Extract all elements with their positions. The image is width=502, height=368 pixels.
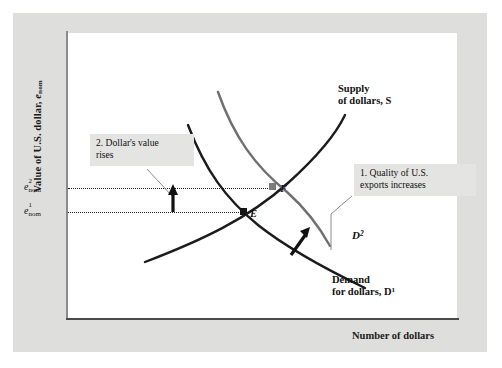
y-tick-e2-nom: e 2 nom xyxy=(24,181,28,192)
callout-dollar-value-rises: 2. Dollar's value rises xyxy=(90,134,194,166)
callout-quality-of-exports: 1. Quality of U.S. exports increases xyxy=(354,164,476,196)
y-axis-title: Value of U.S. dollar, enom xyxy=(32,36,45,236)
demand1-label-line1: Demand xyxy=(332,274,370,285)
y-axis-line xyxy=(66,31,68,320)
exchange-rate-supply-demand-figure: e 2 nom e 1 nom E xyxy=(0,0,502,368)
y-axis-title-subscript: nom xyxy=(36,80,44,94)
guide-line-e1 xyxy=(68,212,245,213)
supply-label-line2: of dollars, S xyxy=(338,95,391,106)
y-tick-e1-nom: e 1 nom xyxy=(24,205,28,216)
demand2-label-superscript: 2 xyxy=(360,229,364,238)
point-F-label: F xyxy=(280,183,287,194)
supply-curve-label: Supply of dollars, S xyxy=(338,83,391,108)
demand1-label-superscript: 1 xyxy=(392,286,396,294)
y-axis-title-symbol: e xyxy=(32,94,43,99)
supply-label-line1: Supply xyxy=(338,83,370,94)
demand2-label-symbol: D xyxy=(352,229,360,241)
guide-line-e2 xyxy=(68,188,274,189)
point-E-label: E xyxy=(250,208,257,219)
demand1-curve-label: Demand for dollars, D1 xyxy=(332,274,395,299)
y-axis-title-text: Value of U.S. dollar, xyxy=(32,99,43,193)
x-axis-line xyxy=(66,318,459,320)
demand1-label-line2: for dollars, D xyxy=(332,287,392,298)
x-axis-title: Number of dollars xyxy=(352,330,434,341)
point-E-marker xyxy=(240,208,247,215)
demand2-curve-label: D2 xyxy=(352,229,364,241)
point-F-marker xyxy=(269,183,276,190)
